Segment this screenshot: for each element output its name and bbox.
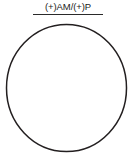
figure-panel: (+)AM/(+)P bbox=[0, 0, 136, 158]
circle-outline bbox=[7, 25, 127, 152]
circle-diagram bbox=[0, 0, 136, 158]
